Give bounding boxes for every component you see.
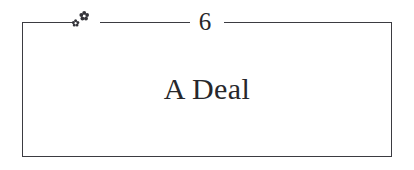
top-rule-segment-middle	[100, 22, 190, 23]
top-rule-segment-right	[224, 22, 392, 23]
chapter-number: 6	[190, 8, 220, 36]
top-rule-segment-left	[22, 22, 72, 23]
chapter-heading-page: 6 A Deal	[0, 0, 414, 170]
chapter-title: A Deal	[22, 71, 392, 107]
